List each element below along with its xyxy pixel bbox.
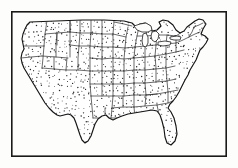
lake-michigan-icon	[142, 33, 148, 47]
lake-erie-icon	[158, 41, 171, 46]
map-figure	[0, 0, 238, 168]
lake-ontario-icon	[170, 36, 181, 40]
us-map-svg	[0, 0, 238, 168]
